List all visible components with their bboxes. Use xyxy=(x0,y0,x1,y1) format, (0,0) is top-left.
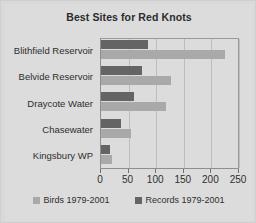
x-axis-tick-label: 250 xyxy=(218,174,256,185)
legend-swatch-icon xyxy=(33,197,40,204)
bar-records xyxy=(101,145,110,154)
x-axis-tick xyxy=(128,169,129,173)
x-axis-tick xyxy=(183,169,184,173)
x-axis-tick xyxy=(100,169,101,173)
bar-group xyxy=(101,90,238,116)
y-axis-label: Belvide Reservoir xyxy=(0,71,93,82)
legend-entry: Records 1979-2001 xyxy=(135,195,224,205)
chart-legend: Birds 1979-2001Records 1979-2001 xyxy=(1,195,256,205)
bar-records xyxy=(101,92,134,101)
bar-group xyxy=(101,64,238,90)
x-axis-tick xyxy=(155,169,156,173)
y-axis-label: Blithfield Reservoir xyxy=(0,45,93,56)
y-axis-label: Draycote Water xyxy=(0,98,93,109)
y-axis-label: Kingsbury WP xyxy=(0,150,93,161)
bar-group xyxy=(101,38,238,64)
bar-group xyxy=(101,143,238,169)
x-axis-tick xyxy=(238,169,239,173)
bar-birds xyxy=(101,76,171,85)
bar-records xyxy=(101,66,142,75)
bar-group xyxy=(101,117,238,143)
bar-records xyxy=(101,40,148,49)
bar-birds xyxy=(101,50,225,59)
chart-figure: Best Sites for Red Knots Blithfield Rese… xyxy=(0,0,256,223)
legend-swatch-icon xyxy=(135,197,142,204)
legend-entry: Birds 1979-2001 xyxy=(33,195,109,205)
bar-birds xyxy=(101,102,166,111)
x-axis-tick xyxy=(210,169,211,173)
legend-label: Birds 1979-2001 xyxy=(43,195,109,205)
legend-label: Records 1979-2001 xyxy=(145,195,224,205)
bar-records xyxy=(101,119,121,128)
gridline xyxy=(239,39,240,168)
chart-title: Best Sites for Red Knots xyxy=(1,11,256,23)
bar-birds xyxy=(101,129,131,138)
y-axis-label: Chasewater xyxy=(0,124,93,135)
bar-birds xyxy=(101,155,112,164)
